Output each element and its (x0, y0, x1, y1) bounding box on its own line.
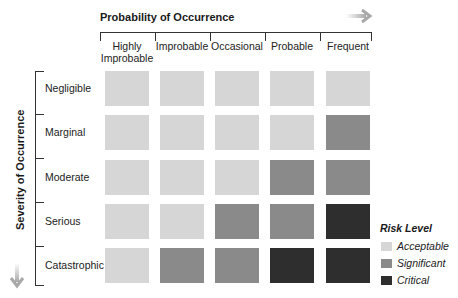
risk-cell-significant (326, 160, 370, 195)
risk-cell-acceptable (215, 160, 259, 195)
legend-swatch-critical (381, 276, 392, 285)
arrow-right-icon (346, 8, 374, 24)
legend-title: Risk Level (380, 222, 432, 234)
risk-cell-acceptable (105, 160, 149, 195)
legend-swatch-acceptable (381, 242, 392, 251)
y-axis-tick (36, 71, 44, 72)
risk-cell-acceptable (160, 115, 204, 150)
arrow-down-icon (9, 263, 25, 289)
legend-label-acceptable: Acceptable (397, 240, 449, 252)
y-axis-tick (36, 114, 44, 115)
column-label-line: Highly (99, 40, 155, 52)
risk-cell-acceptable (105, 204, 149, 239)
column-label: Occasional (209, 40, 265, 52)
y-axis-bracket (35, 71, 44, 286)
row-label: Moderate (45, 171, 89, 183)
risk-cell-acceptable (160, 71, 204, 106)
risk-cell-acceptable (215, 115, 259, 150)
risk-cell-acceptable (270, 115, 314, 150)
risk-cell-acceptable (105, 71, 149, 106)
y-axis-tick (36, 202, 44, 203)
risk-cell-significant (160, 248, 204, 283)
risk-cell-acceptable (105, 248, 149, 283)
row-label: Serious (45, 215, 81, 227)
y-axis-tick (36, 158, 44, 159)
risk-cell-acceptable (270, 71, 314, 106)
column-label-line: Occasional (209, 40, 265, 52)
column-label-line: Improbable (99, 52, 155, 64)
row-label: Catastrophic (45, 259, 104, 271)
x-axis-title: Probability of Occurrence (100, 11, 234, 23)
risk-cell-critical (326, 248, 370, 283)
risk-cell-significant (270, 160, 314, 195)
legend-label-significant: Significant (397, 257, 445, 269)
y-axis-title: Severity of Occurrence (14, 114, 26, 230)
column-label: Improbable (154, 40, 210, 52)
column-label-line: Improbable (154, 40, 210, 52)
risk-cell-critical (270, 248, 314, 283)
risk-cell-acceptable (160, 204, 204, 239)
column-label-line: Frequent (320, 40, 376, 52)
risk-cell-significant (215, 248, 259, 283)
column-label: HighlyImprobable (99, 40, 155, 64)
y-axis-tick (36, 246, 44, 247)
column-label-line: Probable (264, 40, 320, 52)
risk-cell-critical (326, 204, 370, 239)
risk-cell-significant (215, 204, 259, 239)
column-label: Frequent (320, 40, 376, 52)
risk-cell-acceptable (105, 115, 149, 150)
risk-cell-significant (270, 204, 314, 239)
risk-cell-significant (326, 115, 370, 150)
legend-swatch-significant (381, 259, 392, 268)
risk-cell-acceptable (215, 71, 259, 106)
y-axis-tick (36, 285, 44, 286)
risk-cell-acceptable (160, 160, 204, 195)
column-label: Probable (264, 40, 320, 52)
legend-label-critical: Critical (397, 274, 429, 286)
row-label: Marginal (45, 126, 85, 138)
row-label: Negligible (45, 82, 91, 94)
risk-cell-acceptable (326, 71, 370, 106)
